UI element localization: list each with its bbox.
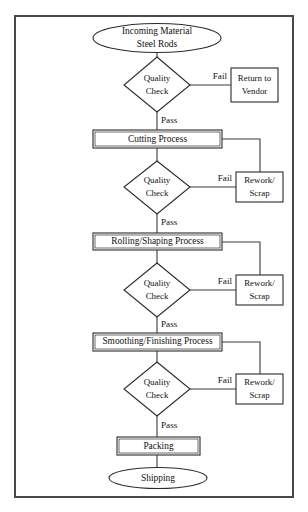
edge-label-fail-4: Fail [218,375,233,385]
edge-label-pass-3: Pass [161,319,178,329]
quality-check-3-line1: Quality [144,278,171,288]
quality-check-2-line1: Quality [144,175,171,185]
node-shipping[interactable]: Shipping [109,468,207,489]
node-packing[interactable]: Packing [117,437,200,455]
edge-label-pass-4: Pass [161,420,178,430]
edge-label-fail-3: Fail [218,276,233,286]
quality-check-1-line2: Check [146,86,169,96]
quality-check-2-line2: Check [146,188,169,198]
rework-scrap-3-line1: Rework/ [244,377,275,387]
edge-label-fail-1: Fail [213,71,228,81]
cutting-process-label: Cutting Process [128,134,187,144]
node-return-to-vendor[interactable]: Return to Vendor [231,68,278,102]
incoming-material-line2: Steel Rods [137,39,178,49]
rework-scrap-1-line2: Scrap [249,188,270,198]
node-rolling-shaping-process[interactable]: Rolling/Shaping Process [93,233,222,250]
node-rework-scrap-2[interactable]: Rework/ Scrap [236,275,283,305]
rolling-shaping-label: Rolling/Shaping Process [111,236,204,246]
quality-check-1-line1: Quality [144,73,171,83]
edge-label-pass-2: Pass [161,217,178,227]
node-rework-scrap-3[interactable]: Rework/ Scrap [236,374,283,404]
return-to-vendor-line1: Return to [238,73,272,83]
incoming-material-line1: Incoming Material [122,26,192,36]
flowchart-svg: Incoming Material Steel Rods Quality Che… [0,0,308,512]
rework-scrap-1-line1: Rework/ [244,175,275,185]
rework-scrap-2-line1: Rework/ [244,278,275,288]
quality-check-3-line2: Check [146,291,169,301]
return-to-vendor-line2: Vendor [242,86,268,96]
node-rework-scrap-1[interactable]: Rework/ Scrap [236,172,283,202]
rework-scrap-3-line2: Scrap [249,390,270,400]
shipping-label: Shipping [141,473,175,483]
flowchart-canvas: Incoming Material Steel Rods Quality Che… [0,0,308,512]
edge-label-pass-1: Pass [161,115,178,125]
quality-check-4-line2: Check [146,390,169,400]
quality-check-4-line1: Quality [144,377,171,387]
node-smoothing-finishing-process[interactable]: Smoothing/Finishing Process [93,333,222,351]
node-cutting-process[interactable]: Cutting Process [93,130,222,148]
packing-label: Packing [143,441,174,451]
rework-scrap-2-line2: Scrap [249,291,270,301]
edge-label-fail-2: Fail [218,173,233,183]
smoothing-finishing-label: Smoothing/Finishing Process [102,336,213,346]
node-incoming-material[interactable]: Incoming Material Steel Rods [93,24,221,53]
